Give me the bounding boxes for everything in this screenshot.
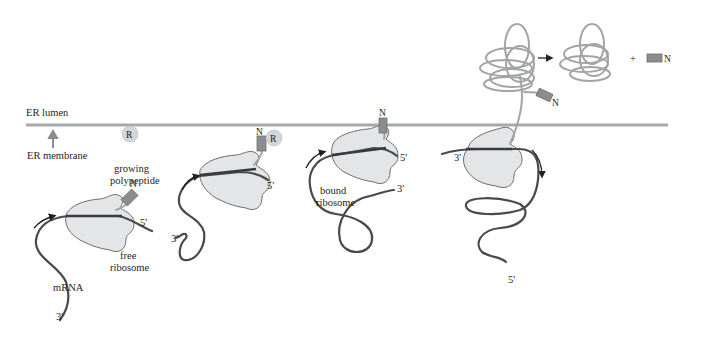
er-translation-diagram: ER lumen ER membrane R N growing polypep… <box>0 0 701 342</box>
plus-sign: + <box>630 53 636 64</box>
three-prime-label: 3' <box>56 311 63 322</box>
mrna-label: mRNA <box>53 282 84 293</box>
free-ribosome-label-2: ribosome <box>110 262 149 273</box>
three-prime-label: 3' <box>397 183 404 194</box>
signal-sequence <box>257 136 266 151</box>
er-lumen-label: ER lumen <box>26 107 69 118</box>
growing-polypeptide-label-2: polypeptide <box>110 175 160 186</box>
three-prime-label: 3' <box>171 233 178 244</box>
cleavage-product-stage: + N <box>560 24 671 81</box>
n-terminus-label: N <box>664 54 671 64</box>
srp-binding-stage: N R 5' 3' <box>171 127 282 260</box>
up-arrow-icon <box>49 131 57 148</box>
signal-sequence <box>121 189 138 206</box>
signal-sequence <box>536 88 553 102</box>
five-prime-label: 5' <box>140 217 147 228</box>
signal-sequence <box>379 118 387 133</box>
mature-protein <box>560 24 610 81</box>
growing-polypeptide-label: growing <box>114 163 150 174</box>
srp-label: R <box>126 130 133 140</box>
free-ribosome-stage: N growing polypeptide 5' free ribosome m… <box>34 163 160 322</box>
translocation-stage: 3' 5' N <box>442 24 559 285</box>
er-membrane-pointer <box>49 131 57 148</box>
five-prime-label: 5' <box>508 274 515 285</box>
bound-ribosome-label: bound <box>320 185 347 196</box>
srp-free: R <box>122 126 138 142</box>
three-prime-label: 3' <box>454 152 461 163</box>
n-terminus-label: N <box>256 127 263 137</box>
bound-ribosome-label-2: ribosome <box>316 197 355 208</box>
ribosome-shape <box>200 151 270 209</box>
five-prime-label: 5' <box>267 180 274 191</box>
n-terminus-label: N <box>552 98 559 108</box>
five-prime-label: 5' <box>400 152 407 163</box>
ribosome-shape <box>66 195 134 252</box>
cleaved-signal-sequence <box>647 54 662 62</box>
srp-label: R <box>270 134 277 144</box>
er-membrane-label: ER membrane <box>27 150 88 161</box>
bound-ribosome-stage: N 5' 3' bound ribosome <box>306 108 407 252</box>
free-ribosome-label: free <box>120 250 137 261</box>
folded-polypeptide <box>480 24 542 94</box>
n-terminus-label: N <box>379 108 386 118</box>
direction-arrow-icon <box>34 216 54 228</box>
